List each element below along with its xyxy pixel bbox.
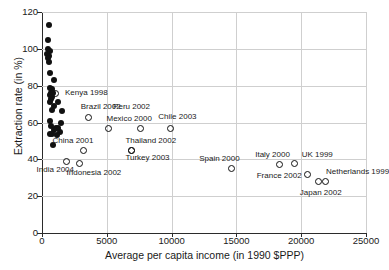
y-axis-tick (37, 159, 42, 160)
data-point-labeled (315, 178, 322, 185)
gridline-vertical (301, 12, 302, 233)
data-point (47, 70, 53, 76)
x-axis-tick-label: 25000 (353, 236, 379, 246)
y-axis-tick-label: 120 (4, 7, 38, 17)
data-point-label: Peru 2002 (113, 102, 150, 111)
data-point-label: Japan 2002 (300, 188, 342, 197)
data-point-label: Thailand 2002 (125, 136, 176, 145)
gridline-vertical (236, 12, 237, 233)
gridline-horizontal (42, 86, 366, 87)
gridline-horizontal (42, 49, 366, 50)
data-point-label: France 2002 (257, 171, 302, 180)
data-point-labeled (80, 147, 87, 154)
y-axis-tick-label: 20 (4, 191, 38, 201)
gridline-vertical (172, 12, 173, 233)
data-point-label: Italy 2000 (255, 150, 290, 159)
data-point (46, 22, 52, 28)
data-point-labeled (276, 161, 283, 168)
data-point (59, 108, 65, 114)
x-axis-tick-label: 0 (39, 236, 44, 246)
y-axis-tick (37, 196, 42, 197)
data-point-labeled (137, 125, 144, 132)
data-point-labeled (304, 171, 311, 178)
gridline-horizontal (42, 12, 366, 13)
data-point-label: Turkey 2003 (125, 153, 169, 162)
data-point (46, 59, 52, 65)
x-axis-tick-label: 10000 (158, 236, 184, 246)
data-point-label: Indonesia 2002 (67, 168, 122, 177)
data-point-labeled (291, 160, 298, 167)
data-point (51, 77, 57, 83)
data-point-labeled (167, 125, 174, 132)
data-point-label: Mexico 2000 (107, 114, 152, 123)
y-axis-title: Extraction rate (in %) (12, 36, 24, 176)
data-point-label: UK 1999 (302, 150, 333, 159)
data-point-label: Spain 2000 (199, 154, 239, 163)
x-axis-title: Average per capita income (in 1990 $PPP) (42, 249, 367, 261)
data-point-labeled (322, 178, 329, 185)
y-axis-tick (37, 12, 42, 13)
y-axis-tick (37, 49, 42, 50)
gridline-horizontal (42, 123, 366, 124)
data-point-labeled (105, 125, 112, 132)
data-point-labeled (76, 160, 83, 167)
y-axis-tick-label: 0 (4, 228, 38, 238)
x-axis-tick-label: 5000 (96, 236, 117, 246)
data-point-labeled (52, 90, 59, 97)
data-point-labeled (85, 114, 92, 121)
data-point-label: Netherlands 1999 (326, 167, 389, 176)
data-point-label: China 2001 (53, 136, 94, 145)
data-point-label: Chile 2003 (158, 112, 196, 121)
data-point (45, 37, 51, 43)
gridline-vertical (366, 12, 367, 233)
plot-area: Kenya 1998Brazil 2002Peru 2002Mexico 200… (42, 12, 366, 233)
data-point-label: Kenya 1998 (65, 88, 108, 97)
x-axis-line (42, 233, 367, 234)
data-point-labeled (228, 165, 235, 172)
data-point (49, 107, 55, 113)
data-point-labeled (63, 158, 70, 165)
x-axis-tick-label: 20000 (288, 236, 314, 246)
x-axis-tick-label: 15000 (223, 236, 249, 246)
y-axis-tick (37, 123, 42, 124)
y-axis-tick (37, 86, 42, 87)
